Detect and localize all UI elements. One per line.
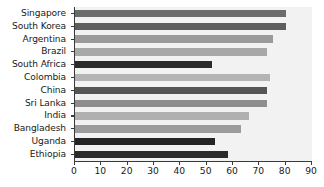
category-label: Uganda xyxy=(0,135,70,148)
category-tick xyxy=(71,128,75,129)
bar-row xyxy=(75,97,312,110)
plot-area xyxy=(74,7,312,161)
category-label: India xyxy=(0,110,70,123)
bar-row xyxy=(75,20,312,33)
bar-row xyxy=(75,84,312,97)
category-label: Argentina xyxy=(0,33,70,46)
x-axis-tick-label: 20 xyxy=(121,166,133,175)
category-label: Singapore xyxy=(0,7,70,20)
x-axis-tick-label: 60 xyxy=(226,166,238,175)
bar-row xyxy=(75,45,312,58)
category-tick xyxy=(71,13,75,14)
x-axis-tick-label: 50 xyxy=(200,166,212,175)
bar xyxy=(75,87,267,94)
bar xyxy=(75,10,286,17)
x-axis-tick-label: 90 xyxy=(305,166,317,175)
bar xyxy=(75,151,228,158)
category-tick xyxy=(71,141,75,142)
bar xyxy=(75,23,286,30)
bar xyxy=(75,125,241,132)
category-tick xyxy=(71,154,75,155)
category-tick xyxy=(71,77,75,78)
bar-row xyxy=(75,122,312,135)
category-tick xyxy=(71,90,75,91)
bar xyxy=(75,100,267,107)
x-axis-tick-label: 0 xyxy=(71,166,77,175)
x-axis-tick-label: 70 xyxy=(252,166,264,175)
x-axis-tick-label: 40 xyxy=(173,166,185,175)
category-label: China xyxy=(0,84,70,97)
bar-row xyxy=(75,71,312,84)
category-tick xyxy=(71,51,75,52)
x-axis-tick-label: 30 xyxy=(147,166,159,175)
bar xyxy=(75,48,267,55)
category-label: Ethiopia xyxy=(0,148,70,161)
category-tick xyxy=(71,26,75,27)
x-axis-line xyxy=(74,161,311,162)
category-label: Brazil xyxy=(0,45,70,58)
bar xyxy=(75,61,212,68)
bar xyxy=(75,138,215,145)
category-tick xyxy=(71,115,75,116)
category-label: South Korea xyxy=(0,20,70,33)
bar xyxy=(75,74,270,81)
x-axis-tick-label: 80 xyxy=(279,166,291,175)
bar-row xyxy=(75,58,312,71)
category-label: Colombia xyxy=(0,71,70,84)
category-tick xyxy=(71,103,75,104)
category-label: Sri Lanka xyxy=(0,97,70,110)
category-axis-labels: SingaporeSouth KoreaArgentinaBrazilSouth… xyxy=(0,7,70,161)
bar xyxy=(75,35,273,42)
bar-row xyxy=(75,33,312,46)
category-tick xyxy=(71,64,75,65)
bar-row xyxy=(75,148,312,161)
bar-row xyxy=(75,110,312,123)
bar-series xyxy=(75,7,312,161)
x-axis-tick-label: 10 xyxy=(94,166,106,175)
category-tick xyxy=(71,39,75,40)
bar-row xyxy=(75,135,312,148)
category-label: Bangladesh xyxy=(0,122,70,135)
bar-row xyxy=(75,7,312,20)
category-label: South Africa xyxy=(0,58,70,71)
bar xyxy=(75,112,249,119)
bar-chart-figure: SingaporeSouth KoreaArgentinaBrazilSouth… xyxy=(0,0,324,187)
